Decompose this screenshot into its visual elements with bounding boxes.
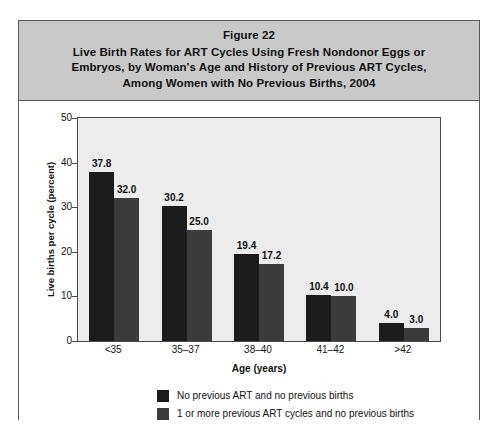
y-tick-label: 20 bbox=[48, 247, 72, 257]
x-category-label: >42 bbox=[367, 345, 439, 355]
y-tick-label: 40 bbox=[48, 158, 72, 168]
x-axis-title: Age (years) bbox=[77, 363, 441, 374]
legend-label-series-1: No previous ART and no previous births bbox=[177, 391, 353, 401]
bar bbox=[89, 172, 114, 341]
bar-value-label: 17.2 bbox=[253, 251, 290, 261]
bar bbox=[331, 296, 356, 341]
x-category-label: <35 bbox=[77, 345, 149, 355]
y-tick-label: 30 bbox=[48, 202, 72, 212]
legend-label-series-2: 1 or more previous ART cycles and no pre… bbox=[177, 409, 414, 419]
y-tick-label: 50 bbox=[48, 113, 72, 123]
chart-body: Live births per cycle (percent) 01020304… bbox=[19, 101, 479, 439]
x-category-label: 41–42 bbox=[294, 345, 366, 355]
chart-legend: No previous ART and no previous births 1… bbox=[157, 387, 414, 423]
plot-area: Live births per cycle (percent) 01020304… bbox=[77, 117, 441, 342]
bar bbox=[162, 206, 187, 341]
figure-title-line-3: Among Women with No Previous Births, 200… bbox=[33, 76, 465, 92]
bar bbox=[306, 295, 331, 341]
y-tick-label: 10 bbox=[48, 291, 72, 301]
bar-value-label: 32.0 bbox=[108, 185, 145, 195]
figure-number: Figure 22 bbox=[33, 28, 465, 44]
bar-value-label: 3.0 bbox=[398, 315, 435, 325]
y-tick-mark bbox=[72, 341, 78, 342]
x-category-label: 35–37 bbox=[149, 345, 221, 355]
y-tick-mark bbox=[72, 118, 78, 119]
bar-value-label: 10.0 bbox=[325, 283, 362, 293]
legend-swatch-icon-series-1 bbox=[157, 390, 169, 402]
figure-container: Figure 22 Live Birth Rates for ART Cycle… bbox=[18, 20, 480, 420]
bar bbox=[114, 198, 139, 341]
figure-title-line-1: Live Birth Rates for ART Cycles Using Fr… bbox=[33, 45, 465, 61]
bar bbox=[234, 254, 259, 341]
y-tick-mark bbox=[72, 252, 78, 253]
y-tick-mark bbox=[72, 163, 78, 164]
y-tick-mark bbox=[72, 296, 78, 297]
bar-value-label: 37.8 bbox=[83, 159, 120, 169]
y-tick-mark bbox=[72, 207, 78, 208]
figure-title-line-2: Embryos, by Woman's Age and History of P… bbox=[33, 60, 465, 76]
bar bbox=[259, 264, 284, 341]
legend-swatch-icon-series-2 bbox=[157, 408, 169, 420]
y-tick-label: 0 bbox=[48, 336, 72, 346]
bar-value-label: 30.2 bbox=[156, 193, 193, 203]
y-axis-title: Live births per cycle (percent) bbox=[44, 118, 58, 341]
bar bbox=[404, 328, 429, 341]
bar-value-label: 19.4 bbox=[228, 241, 265, 251]
figure-title-band: Figure 22 Live Birth Rates for ART Cycle… bbox=[19, 21, 479, 101]
bar bbox=[379, 323, 404, 341]
bar-value-label: 25.0 bbox=[181, 217, 218, 227]
x-category-label: 38–40 bbox=[222, 345, 294, 355]
bar bbox=[187, 230, 212, 342]
legend-item-series-2: 1 or more previous ART cycles and no pre… bbox=[157, 405, 414, 423]
legend-item-series-1: No previous ART and no previous births bbox=[157, 387, 414, 405]
